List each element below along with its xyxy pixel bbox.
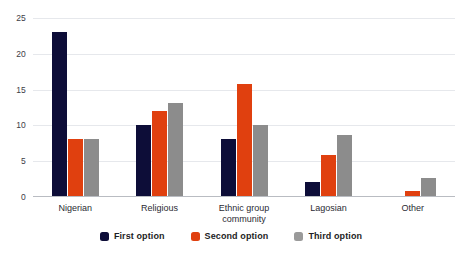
x-axis-tick-label: Lagosian (286, 200, 370, 234)
bar-group (371, 18, 455, 197)
bar[interactable] (136, 125, 151, 196)
chart-legend: First optionSecond optionThird option (0, 231, 462, 241)
legend-item[interactable]: Third option (294, 231, 362, 241)
bar[interactable] (221, 139, 236, 196)
y-axis-tick-label: 0 (21, 192, 26, 202)
bar[interactable] (305, 182, 320, 196)
x-axis: NigerianReligiousEthnic group communityL… (33, 200, 455, 234)
x-axis-tick-label: Ethnic group community (202, 200, 286, 234)
bar-group (202, 18, 286, 197)
bar-group-bars (117, 18, 201, 196)
legend-swatch-icon (191, 232, 200, 241)
y-axis: 0510152025 (0, 0, 33, 197)
bar[interactable] (405, 191, 420, 196)
legend-item[interactable]: First option (100, 231, 165, 241)
x-axis-tick-label: Religious (117, 200, 201, 234)
bar[interactable] (68, 139, 83, 196)
y-axis-tick-label: 10 (16, 120, 26, 130)
legend-item-label: Second option (205, 231, 269, 241)
bar-chart: 0510152025 NigerianReligiousEthnic group… (0, 0, 462, 255)
bar-group (33, 18, 117, 197)
legend-item-label: First option (114, 231, 165, 241)
legend-swatch-icon (294, 232, 303, 241)
y-axis-tick-label: 25 (16, 13, 26, 23)
bar-group-bars (202, 18, 286, 196)
legend-swatch-icon (100, 232, 109, 241)
bar[interactable] (253, 125, 268, 196)
x-axis-tick-label: Other (371, 200, 455, 234)
y-axis-tick-label: 20 (16, 49, 26, 59)
bar-group (286, 18, 370, 197)
bar[interactable] (337, 135, 352, 196)
bar[interactable] (168, 103, 183, 196)
bar[interactable] (421, 178, 436, 196)
legend-item[interactable]: Second option (191, 231, 269, 241)
bar-group-bars (371, 18, 455, 196)
bar-group-bars (33, 18, 117, 196)
bar[interactable] (84, 139, 99, 196)
plot-area (33, 18, 455, 197)
y-axis-tick-label: 15 (16, 85, 26, 95)
bar-group (117, 18, 201, 197)
bar-group-bars (286, 18, 370, 196)
bar[interactable] (321, 155, 336, 196)
bar-groups (33, 18, 455, 197)
bar[interactable] (52, 32, 67, 196)
bar[interactable] (152, 111, 167, 196)
y-axis-tick-label: 5 (21, 156, 26, 166)
x-axis-tick-label: Nigerian (33, 200, 117, 234)
legend-item-label: Third option (308, 231, 362, 241)
bar[interactable] (237, 84, 252, 196)
